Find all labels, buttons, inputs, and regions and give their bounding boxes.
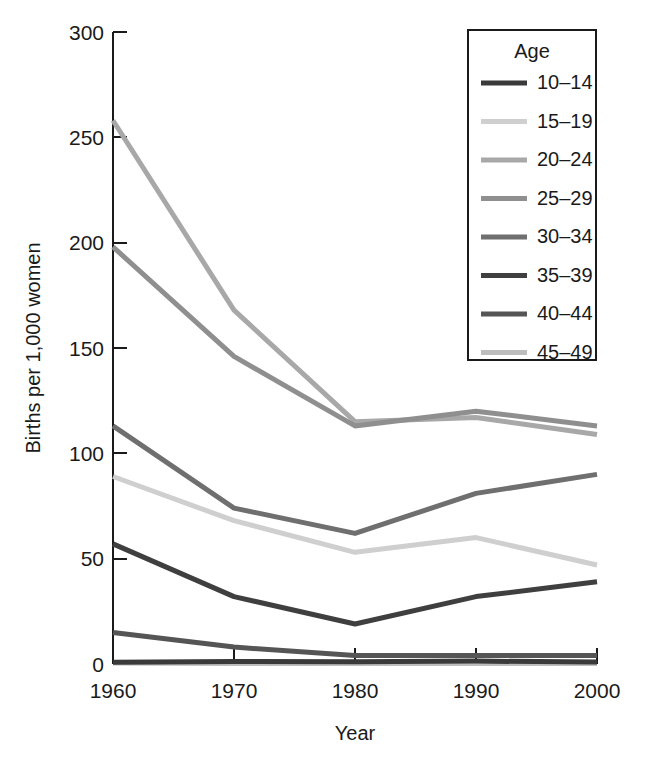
x-tick-label-2000: 2000 [574,679,621,702]
legend-label-30-34: 30–34 [537,225,593,247]
series-line-10-14 [113,661,597,662]
chart-canvas: Births per 1,000 women 300 250 200 150 1… [0,0,664,758]
x-tick-label-1970: 1970 [211,679,258,702]
y-tick-label-150: 150 [69,337,104,360]
x-tick-label-1980: 1980 [332,679,379,702]
series-line-35-39 [113,544,597,624]
x-tick-label-1960: 1960 [90,679,137,702]
legend-label-40-44: 40–44 [537,302,593,324]
y-tick-label-250: 250 [69,126,104,149]
x-tick-label-1990: 1990 [453,679,500,702]
y-tick-label-100: 100 [69,442,104,465]
y-axis-title: Births per 1,000 women [22,242,44,453]
legend-label-10-14: 10–14 [537,71,593,93]
line-chart: Births per 1,000 women 300 250 200 150 1… [0,0,664,758]
series-line-15-19 [113,477,597,566]
y-tick-label-200: 200 [69,231,104,254]
legend-label-25-29: 25–29 [537,187,593,209]
legend-label-45-49: 45–49 [537,341,593,363]
y-tick-label-0: 0 [92,653,104,676]
y-tick-label-50: 50 [81,547,104,570]
x-axis-title: Year [335,722,376,744]
legend-title: Age [514,40,550,62]
y-tick-label-300: 300 [69,21,104,44]
legend-label-20-24: 20–24 [537,148,593,170]
series-line-30-34 [113,426,597,534]
legend-label-35-39: 35–39 [537,264,593,286]
legend-label-15-19: 15–19 [537,110,593,132]
